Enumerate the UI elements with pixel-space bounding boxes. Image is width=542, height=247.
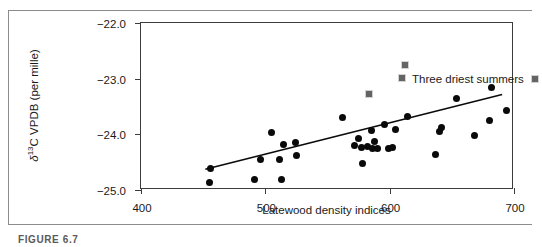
data-point-circle [278,176,285,183]
data-point-circle [432,151,439,158]
x-tick-label: 600 [381,202,400,214]
data-point-circle [381,121,388,128]
data-point-circle [293,152,300,159]
plot-area: −22.0−23.0−24.0−25.0 400500600700 Three … [140,22,513,189]
y-tick-label: −22.0 [97,18,126,30]
y-tick-label: −24.0 [97,129,126,141]
figure-caption: FIGURE 6.7 [18,234,78,247]
x-tick-label: 500 [257,202,276,214]
data-point-circle [359,160,366,167]
y-tick: −23.0 [135,79,141,80]
data-point-circle [392,126,399,133]
y-tick-label: −23.0 [97,74,126,86]
delta-symbol: δ [28,155,40,161]
y-axis-title-rest: C VPDB (per mille) [28,49,40,146]
data-point-circle [268,129,275,136]
data-point-circle [389,144,396,151]
data-point-circle [503,107,510,114]
data-point-circle [280,141,287,148]
data-point-circle [292,139,299,146]
data-point-circle [276,156,283,163]
legend: Three driest summers [412,73,539,85]
data-point-square [365,90,373,98]
isotope-superscript: 13 [26,146,35,155]
x-axis-title: Latewood density indices [140,204,513,216]
data-point-circle [206,179,213,186]
data-point-circle [404,113,411,120]
data-point-circle [374,145,381,152]
data-point-circle [355,135,362,142]
data-point-square [401,61,409,69]
legend-square-marker-icon [531,75,539,83]
figure-page: δ13C VPDB (per mille) Latewood density i… [0,0,542,247]
y-tick: −24.0 [135,134,141,135]
x-tick: 600 [390,188,391,194]
data-point-circle [339,114,346,121]
data-point-circle [371,138,378,145]
trendline [141,23,512,188]
data-point-circle [257,156,264,163]
data-point-circle [486,117,493,124]
y-tick-label: −25.0 [97,185,126,197]
x-tick: 400 [141,188,142,194]
x-tick-label: 700 [505,202,524,214]
legend-label: Three driest summers [412,73,524,85]
data-point-circle [488,84,495,91]
data-point-circle [453,95,460,102]
y-axis-title: δ13C VPDB (per mille) [24,22,38,189]
data-point-circle [438,124,445,131]
data-point-circle [471,132,478,139]
data-point-circle [368,127,375,134]
x-tick-label: 400 [132,202,151,214]
data-point-square [398,74,406,82]
data-point-circle [207,165,214,172]
data-point-circle [251,176,258,183]
x-tick: 700 [514,188,515,194]
y-tick: −22.0 [135,23,141,24]
x-tick: 500 [265,188,266,194]
